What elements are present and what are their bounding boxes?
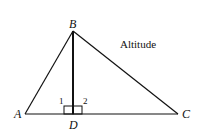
right-angle-mark-2	[73, 106, 82, 114]
altitude-diagram: B A C D 1 2 Altitude	[0, 0, 201, 139]
vertex-label-a: A	[13, 107, 22, 121]
angle-label-2: 2	[83, 96, 88, 106]
diagram-title: Altitude	[120, 38, 156, 50]
segment-ab	[25, 31, 73, 114]
vertex-label-d: D	[68, 118, 78, 132]
vertex-label-c: C	[182, 107, 191, 121]
angle-label-1: 1	[59, 96, 64, 106]
vertex-label-b: B	[69, 17, 77, 31]
right-angle-mark-1	[64, 106, 73, 114]
